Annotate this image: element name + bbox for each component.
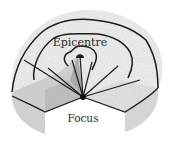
- focus-label: Focus: [67, 112, 98, 124]
- focus-point-icon: [80, 94, 86, 100]
- earthquake-block-diagram: Epicentre Focus: [0, 0, 170, 143]
- epicentre-label: Epicentre: [53, 36, 108, 49]
